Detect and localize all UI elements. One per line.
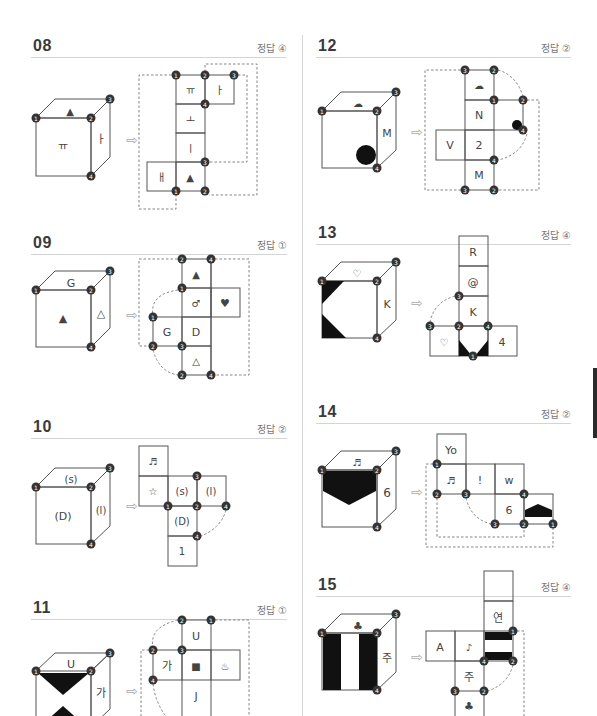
svg-text:2: 2 bbox=[151, 343, 155, 350]
svg-text:3: 3 bbox=[464, 491, 468, 498]
net-face: ! bbox=[478, 474, 482, 487]
svg-text:4: 4 bbox=[151, 677, 155, 684]
cube-front-symbol: ㅠ bbox=[58, 140, 68, 153]
svg-text:1: 1 bbox=[180, 285, 184, 292]
cube-diagram: ♣ 주 1234 ⇨ 연 A ♪ 주 ♣ 14232 bbox=[316, 574, 571, 716]
problem-08: 08 정답 ④ ▲ ㅠ ㅏ 1234 ⇨ ㅠ ㅏ ㅗ ㅣ ㅐ ▲ 1234312 bbox=[31, 35, 287, 215]
problem-10: 10 정답 ② (s) (D) (l) 1234 ⇨ ♬ ☆ (s) (l) (… bbox=[31, 416, 287, 586]
cube-top-symbol: ☁ bbox=[353, 98, 363, 109]
svg-text:4: 4 bbox=[375, 165, 379, 172]
cube-right-symbol: (l) bbox=[96, 505, 107, 516]
svg-text:3: 3 bbox=[195, 473, 199, 480]
net-face: (l) bbox=[206, 486, 217, 497]
svg-text:2: 2 bbox=[521, 97, 525, 104]
net-face: A bbox=[436, 641, 444, 654]
net-face: 연 bbox=[493, 612, 503, 625]
net-face: △ bbox=[192, 356, 200, 367]
net-face: V bbox=[446, 139, 454, 152]
net-face: D bbox=[192, 326, 200, 339]
svg-text:1: 1 bbox=[34, 484, 38, 491]
problem-13: 13 정답 ④ ♡ K 1234 ⇨ R @ K ♡ 4 33241 bbox=[316, 222, 571, 382]
net-face: ㅐ bbox=[157, 172, 166, 183]
svg-text:4: 4 bbox=[209, 256, 213, 263]
net-face: 가 bbox=[162, 660, 172, 673]
svg-text:1: 1 bbox=[151, 314, 155, 321]
svg-text:1: 1 bbox=[174, 188, 178, 195]
svg-text:2: 2 bbox=[89, 668, 93, 675]
svg-text:1: 1 bbox=[320, 108, 324, 115]
cube-front-symbol: (D) bbox=[54, 510, 71, 523]
cube-top-symbol: ♬ bbox=[353, 457, 362, 468]
net-face: ■ bbox=[191, 661, 200, 672]
svg-text:2: 2 bbox=[203, 188, 207, 195]
cube-top-symbol: G bbox=[67, 277, 76, 290]
svg-text:2: 2 bbox=[457, 323, 461, 330]
net-face: J bbox=[193, 690, 197, 703]
net-face: K bbox=[469, 306, 477, 319]
svg-text:1: 1 bbox=[492, 97, 496, 104]
svg-text:1: 1 bbox=[34, 668, 38, 675]
svg-text:4: 4 bbox=[375, 524, 379, 531]
svg-text:3: 3 bbox=[180, 343, 184, 350]
net-face: ♥ bbox=[220, 297, 230, 310]
cube-front-symbol: ▲ bbox=[59, 312, 68, 325]
arrow-icon: ⇨ bbox=[126, 498, 138, 514]
arrow-icon: ⇨ bbox=[411, 484, 423, 500]
cube-top-symbol: ♡ bbox=[353, 268, 362, 279]
problem-11: 11 정답 ① U 가 123 ⇨ U 가 ■ ♨ J 21234 bbox=[31, 597, 287, 716]
net-face: ☆ bbox=[149, 486, 158, 497]
net-face: ♣ bbox=[464, 700, 474, 713]
svg-text:3: 3 bbox=[463, 67, 467, 74]
svg-text:3: 3 bbox=[394, 611, 398, 618]
net-face: ♂ bbox=[192, 298, 201, 309]
svg-text:3: 3 bbox=[453, 688, 457, 695]
svg-text:2: 2 bbox=[89, 115, 93, 122]
arrow-icon: ⇨ bbox=[411, 295, 423, 311]
svg-text:3: 3 bbox=[428, 323, 432, 330]
svg-text:1: 1 bbox=[511, 628, 515, 635]
cube-right-symbol: K bbox=[383, 298, 391, 311]
svg-text:2: 2 bbox=[195, 503, 199, 510]
net-face: ♨ bbox=[221, 661, 230, 672]
svg-text:3: 3 bbox=[457, 293, 461, 300]
svg-text:3: 3 bbox=[463, 187, 467, 194]
svg-text:2: 2 bbox=[89, 287, 93, 294]
net-face: 주 bbox=[464, 671, 474, 684]
svg-text:2: 2 bbox=[203, 72, 207, 79]
net-face: ㅏ bbox=[215, 85, 224, 96]
cube-top-symbol: ▲ bbox=[66, 106, 74, 117]
net-face: @ bbox=[468, 276, 479, 289]
svg-text:4: 4 bbox=[486, 323, 490, 330]
net-face: ♬ bbox=[149, 456, 158, 467]
net-face: ㅠ bbox=[186, 85, 195, 96]
cube-diagram: ▲ ㅠ ㅏ 1234 ⇨ ㅠ ㅏ ㅗ ㅣ ㅐ ▲ 1234312 bbox=[31, 35, 287, 215]
cube-diagram: ☁ M 1234 ⇨ ☁ N V 2 M 32124432 bbox=[316, 35, 571, 215]
net-face: R bbox=[469, 246, 477, 259]
net-face: N bbox=[475, 109, 483, 122]
net-face: w bbox=[505, 474, 514, 487]
problem-14: 14 정답 ② ♬ 6 1234 ⇨ Yo ♬ ! w 6 1234321 bbox=[316, 401, 571, 561]
svg-text:4: 4 bbox=[521, 127, 525, 134]
cube-diagram: (s) (D) (l) 1234 ⇨ ♬ ☆ (s) (l) (D) 1 312… bbox=[31, 416, 287, 586]
svg-text:4: 4 bbox=[89, 541, 93, 548]
svg-text:4: 4 bbox=[482, 658, 486, 665]
svg-text:1: 1 bbox=[435, 461, 439, 468]
svg-text:2: 2 bbox=[492, 187, 496, 194]
svg-text:4: 4 bbox=[492, 157, 496, 164]
net-face: ♡ bbox=[440, 337, 449, 348]
net-face: 6 bbox=[506, 504, 513, 517]
cube-right-symbol: 6 bbox=[383, 486, 391, 500]
svg-text:1: 1 bbox=[209, 617, 213, 624]
column-divider bbox=[302, 35, 303, 716]
net-face: ☁ bbox=[474, 80, 484, 91]
cube-diagram: G ▲ △ 1234 ⇨ ▲ ♂ ♥ G D △ 24112324 bbox=[31, 232, 287, 407]
net-face: G bbox=[163, 326, 172, 339]
cube-diagram: U 가 123 ⇨ U 가 ■ ♨ J 21234 bbox=[31, 597, 287, 716]
svg-text:3: 3 bbox=[394, 448, 398, 455]
svg-text:1: 1 bbox=[320, 467, 324, 474]
problem-15: 15 정답 ④ ♣ 주 1234 ⇨ 연 A ♪ 주 ♣ 14232 bbox=[316, 574, 571, 716]
svg-text:1: 1 bbox=[320, 278, 324, 285]
net-face: ♪ bbox=[466, 642, 472, 653]
net-face: (s) bbox=[175, 486, 188, 497]
net-face: (D) bbox=[174, 516, 190, 527]
